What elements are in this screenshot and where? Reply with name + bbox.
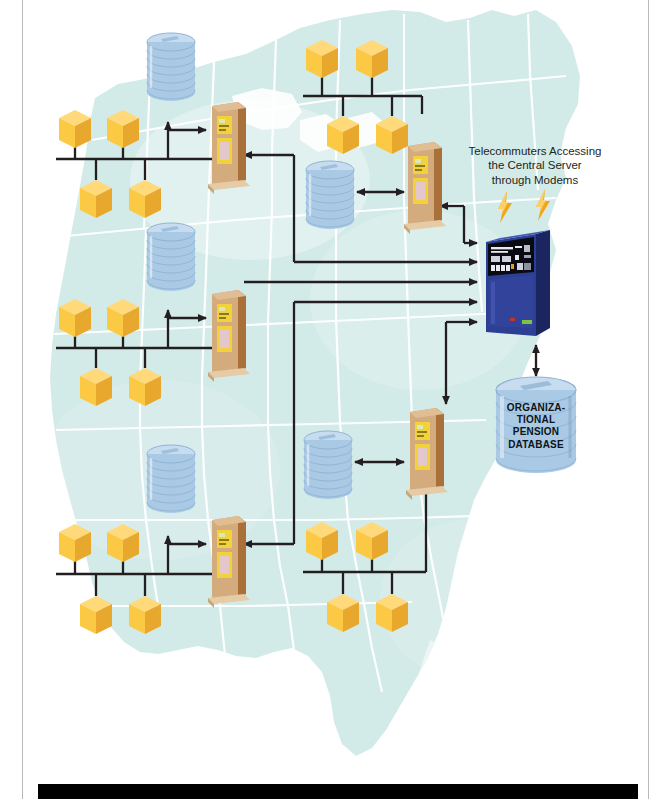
local-database-disk-stack[interactable]: [300, 428, 356, 502]
telecommuters-label-line-1: Telecommuters Accessing: [430, 144, 640, 158]
page-rule-left: [22, 0, 23, 799]
bottom-black-bar: [38, 784, 638, 799]
site-server-tower[interactable]: [404, 406, 448, 502]
local-database-disk-stack[interactable]: [143, 30, 199, 104]
figure-canvas: Telecommuters Accessing the Central Serv…: [0, 0, 664, 799]
workstation-cube[interactable]: [352, 520, 392, 564]
workstation-cube[interactable]: [103, 522, 143, 566]
workstation-cube[interactable]: [302, 38, 342, 82]
workstation-cube[interactable]: [76, 594, 116, 638]
local-database-disk-stack[interactable]: [302, 158, 358, 232]
telecommuters-label-line-2: the Central Server: [430, 158, 640, 172]
workstation-cube[interactable]: [323, 592, 363, 636]
telecommuters-label: Telecommuters Accessing the Central Serv…: [430, 144, 640, 187]
organizational-pension-database[interactable]: ORGANIZA- TIONAL PENSION DATABASE: [490, 374, 582, 478]
site-server-tower[interactable]: [206, 100, 250, 196]
modem-signal-left-lightning-icon: [494, 190, 516, 224]
workstation-cube[interactable]: [125, 178, 165, 222]
central-database-label-line-1: ORGANIZA-: [490, 402, 582, 414]
central-server[interactable]: [484, 228, 554, 340]
workstation-cube[interactable]: [103, 297, 143, 341]
workstation-cube[interactable]: [55, 297, 95, 341]
workstation-cube[interactable]: [352, 38, 392, 82]
workstation-cube[interactable]: [302, 520, 342, 564]
page-rule-right: [648, 0, 649, 799]
telecommuters-label-line-3: through Modems: [430, 173, 640, 187]
local-database-disk-stack[interactable]: [143, 220, 199, 294]
site-server-tower[interactable]: [206, 288, 250, 384]
workstation-cube[interactable]: [125, 366, 165, 410]
workstation-cube[interactable]: [55, 108, 95, 152]
local-database-disk-stack[interactable]: [143, 442, 199, 516]
workstation-cube[interactable]: [76, 178, 116, 222]
central-database-label-line-4: DATABASE: [490, 439, 582, 451]
site-server-tower[interactable]: [206, 514, 250, 610]
central-database-label-line-3: PENSION: [490, 426, 582, 438]
workstation-cube[interactable]: [76, 366, 116, 410]
workstation-cube[interactable]: [103, 108, 143, 152]
workstation-cube[interactable]: [55, 522, 95, 566]
central-database-label: ORGANIZA- TIONAL PENSION DATABASE: [490, 402, 582, 451]
workstation-cube[interactable]: [372, 592, 412, 636]
modem-signal-right-lightning-icon: [532, 188, 554, 222]
workstation-cube[interactable]: [125, 594, 165, 638]
central-database-label-line-2: TIONAL: [490, 414, 582, 426]
workstation-cube[interactable]: [323, 114, 363, 158]
